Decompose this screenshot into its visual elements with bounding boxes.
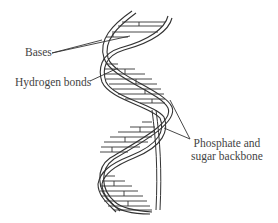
backbone-label-line1: Phosphate and xyxy=(191,137,263,150)
backbone-pointer-1 xyxy=(170,100,190,139)
dna-helix-diagram xyxy=(0,0,278,223)
bases-label: Bases xyxy=(25,46,52,59)
bases-pointer-2 xyxy=(52,36,130,53)
base-pair-rungs-upper xyxy=(106,22,165,37)
backbone-label: Phosphate and sugar backbone xyxy=(191,137,263,163)
hydrogen-bonds-label: Hydrogen bonds xyxy=(15,76,91,89)
helix-group xyxy=(52,11,190,214)
backbone-strand-b xyxy=(98,16,172,212)
backbone-strand-a xyxy=(100,11,173,214)
backbone-pointer-2 xyxy=(164,128,190,139)
backbone-label-line2: sugar backbone xyxy=(191,150,263,163)
